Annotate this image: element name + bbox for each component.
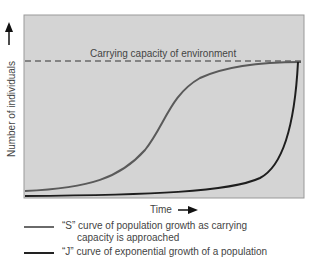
y-axis-label-text: Number of individuals — [6, 61, 17, 157]
legend-label: “J” curve of exponential growth of a pop… — [62, 246, 267, 258]
legend: “S” curve of population growth as carryi… — [24, 220, 314, 260]
legend-label: “S” curve of population growth as carryi… — [62, 220, 247, 232]
legend-item-j-curve: “J” curve of exponential growth of a pop… — [24, 246, 314, 260]
legend-label-continued: capacity is approached — [77, 232, 179, 244]
y-arrowhead-icon — [5, 22, 13, 32]
x-arrowhead-icon — [188, 206, 198, 214]
x-axis-label: Time — [150, 204, 172, 215]
j-curve-swatch — [24, 252, 54, 254]
legend-item-s-curve: “S” curve of population growth as carryi… — [24, 220, 314, 246]
population-growth-figure: Carrying capacity of environment Number … — [0, 0, 315, 268]
carrying-capacity-label: Carrying capacity of environment — [88, 48, 238, 59]
plot-background — [24, 15, 304, 198]
y-axis-label: Number of individuals — [6, 34, 20, 184]
s-curve-swatch — [24, 226, 54, 228]
